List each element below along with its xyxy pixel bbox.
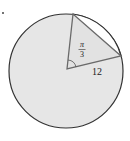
circle-diagram: π 3 12: [0, 0, 130, 141]
item-marker-dot: [2, 12, 4, 14]
angle-label-denominator: 3: [80, 50, 84, 59]
radius-label: 12: [92, 66, 102, 77]
